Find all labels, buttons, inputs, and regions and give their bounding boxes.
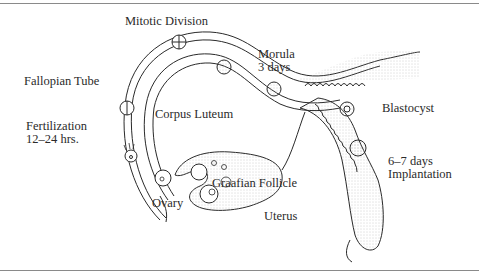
label-ovary: Ovary — [152, 197, 183, 210]
label-mitotic-division: Mitotic Division — [125, 15, 208, 28]
label-graafian-follicle: Graafian Follicle — [212, 177, 297, 190]
label-uterus: Uterus — [264, 210, 297, 223]
label-fertilization-time: 12–24 hrs. — [26, 133, 79, 146]
label-morula-days: 3 days — [258, 61, 290, 74]
label-implantation: Implantation — [388, 168, 452, 181]
corpus-luteum-body — [191, 164, 207, 180]
label-fallopian-tube: Fallopian Tube — [24, 75, 99, 88]
label-blastocyst: Blastocyst — [382, 102, 434, 115]
uterus-upper-wall — [300, 51, 420, 83]
uterus-body — [300, 98, 383, 250]
endometrium-upper — [305, 84, 365, 87]
label-corpus-luteum: Corpus Luteum — [155, 108, 233, 121]
